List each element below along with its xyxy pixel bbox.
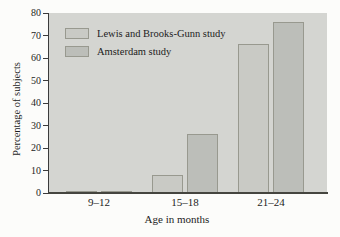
y-tick-10 — [43, 170, 49, 171]
legend-label-lewis: Lewis and Brooks-Gunn study — [97, 27, 226, 40]
y-tick-label-0: 0 — [19, 187, 41, 199]
y-tick-0 — [43, 193, 49, 194]
y-tick-60 — [43, 58, 49, 59]
legend-swatch-lewis — [65, 28, 89, 39]
bar-amsterdam-21-24 — [273, 22, 304, 193]
y-tick-40 — [43, 103, 49, 104]
bar-lewis-21-24 — [238, 44, 269, 193]
y-tick-20 — [43, 148, 49, 149]
bar-lewis-15-18 — [152, 175, 183, 193]
y-axis-title: Percentage of subjects — [10, 39, 24, 179]
y-tick-80 — [43, 13, 49, 14]
x-category-label-15-18: 15–18 — [155, 196, 215, 209]
y-tick-label-80: 80 — [19, 7, 41, 19]
y-tick-50 — [43, 80, 49, 81]
self-recognition-bar-chart: 01020304050607080 9–1215–1821–24 Percent… — [0, 0, 340, 237]
x-category-label-21-24: 21–24 — [241, 196, 301, 209]
legend-swatch-amsterdam — [65, 46, 89, 57]
bar-amsterdam-15-18 — [187, 134, 218, 193]
y-tick-70 — [43, 35, 49, 36]
legend-label-amsterdam: Amsterdam study — [97, 45, 171, 58]
y-tick-30 — [43, 125, 49, 126]
x-axis-line — [48, 192, 328, 194]
x-axis-title: Age in months — [107, 212, 247, 226]
x-category-label-9-12: 9–12 — [69, 196, 129, 209]
y-axis-line — [48, 13, 49, 194]
